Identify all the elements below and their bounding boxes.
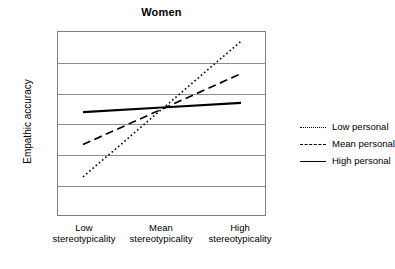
- legend-label: High personal: [332, 155, 391, 166]
- legend-label: Mean personal: [332, 138, 395, 149]
- legend-solid-line-icon: [300, 156, 326, 166]
- legend-label: Low personal: [332, 121, 389, 132]
- legend-item-high-personal: High personal: [300, 152, 395, 169]
- series-line-low-personal: [83, 41, 241, 177]
- y-axis-label: Empathic accuracy: [22, 47, 33, 197]
- plot-area: [57, 31, 266, 216]
- legend-dashed-line-icon: [300, 139, 326, 149]
- series-line-high-personal: [83, 103, 241, 112]
- series-lines: [58, 32, 267, 217]
- chart-title: Women: [57, 6, 266, 18]
- chart-legend: Low personal Mean personal High personal: [300, 118, 395, 169]
- x-tick-line1: High: [194, 222, 286, 233]
- series-line-mean-personal: [83, 74, 241, 145]
- legend-item-mean-personal: Mean personal: [300, 135, 395, 152]
- legend-item-low-personal: Low personal: [300, 118, 395, 135]
- x-tick-label-high: High stereotypicality: [194, 222, 286, 244]
- x-tick-line2: stereotypicality: [194, 233, 286, 244]
- legend-dotted-line-icon: [300, 122, 326, 132]
